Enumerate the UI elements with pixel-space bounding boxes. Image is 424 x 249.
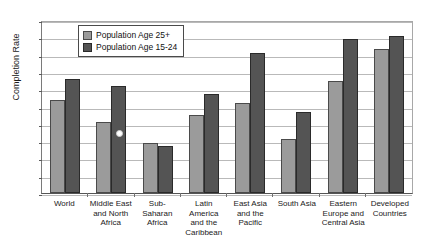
bar [204, 94, 219, 193]
bar [50, 100, 65, 193]
legend-label: Population Age 25+ [96, 30, 170, 40]
legend-label: Population Age 15-24 [96, 42, 177, 52]
bar [158, 146, 173, 193]
legend: Population Age 25+Population Age 15-24 [78, 25, 184, 57]
x-axis-tick-label: Latin America and the Caribbean [181, 199, 228, 237]
bar [250, 53, 265, 193]
bar [281, 139, 296, 193]
x-axis-tick-label: East Asia and the Pacific [227, 199, 274, 237]
bar [111, 86, 126, 193]
legend-swatch-icon [83, 31, 92, 40]
x-axis-tick-label: Sub-Saharan Africa [134, 199, 181, 237]
x-axis-tick-label: Middle East and North Africa [88, 199, 135, 237]
bar [143, 143, 158, 193]
bar [374, 49, 389, 193]
bar-group [273, 22, 319, 193]
bar [389, 36, 404, 193]
bar-group [320, 22, 366, 193]
bar-chart: Completion Rate 1009080706050403020100 P… [0, 0, 424, 249]
bar-group [366, 22, 412, 193]
x-axis-tick-label: World [41, 199, 88, 237]
bar-group [227, 22, 273, 193]
bar [235, 103, 250, 193]
gridline [42, 195, 412, 196]
y-axis-title: Completion Rate [11, 7, 21, 127]
bar [65, 79, 80, 193]
bar [296, 112, 311, 193]
bar [96, 122, 111, 193]
x-axis-tick-label: South Asia [274, 199, 321, 237]
dot-marker-icon [116, 130, 123, 137]
bar [189, 115, 204, 193]
legend-item: Population Age 25+ [83, 29, 177, 41]
bar [328, 81, 343, 193]
x-axis-tick-labels: WorldMiddle East and North AfricaSub-Sah… [41, 199, 413, 237]
legend-swatch-icon [83, 43, 92, 52]
bar-group [181, 22, 227, 193]
y-axis-tick-mark [39, 195, 42, 196]
x-axis-tick-label: Developed Countries [367, 199, 414, 237]
legend-item: Population Age 15-24 [83, 41, 177, 53]
bar [343, 39, 358, 193]
x-axis-tick-label: Eastern Europe and Central Asia [320, 199, 367, 237]
